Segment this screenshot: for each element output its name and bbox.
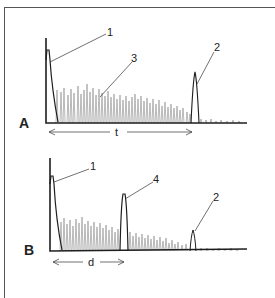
callout-line-2-a (197, 52, 214, 84)
interval-arrow-t (49, 129, 192, 135)
panel-label-b: B (24, 242, 34, 258)
peak-1-b (50, 176, 62, 250)
peak-2-b (190, 230, 196, 251)
callout-num-3-a: 3 (131, 52, 137, 64)
callout-line-3-a (100, 62, 132, 97)
callout-line-1-b (54, 169, 89, 182)
panel-b (50, 158, 247, 265)
callout-line-1-a (50, 34, 106, 62)
interval-label-t: t (115, 126, 118, 138)
callout-num-1-a: 1 (107, 26, 113, 38)
interval-label-d: d (88, 256, 94, 268)
callout-line-2-b (195, 201, 213, 231)
peak-2-a (191, 72, 199, 123)
panel-label-a: A (19, 115, 29, 131)
callout-num-2-a: 2 (214, 41, 220, 53)
callout-num-1-b: 1 (90, 160, 96, 172)
peak-4-b (120, 194, 128, 251)
echo-grass-a (56, 84, 240, 123)
echo-grass-b (60, 217, 238, 251)
callout-num-2-b: 2 (213, 191, 219, 203)
callout-num-4-b: 4 (153, 173, 159, 185)
callout-line-4-b (125, 182, 153, 199)
